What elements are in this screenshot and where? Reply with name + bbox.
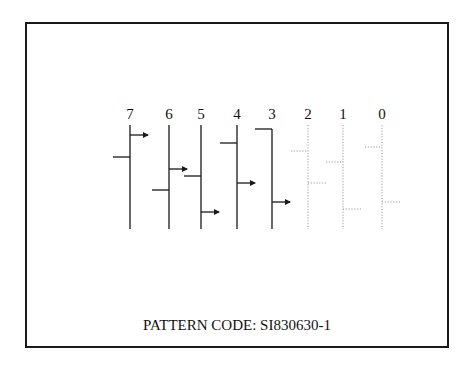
channel-7: 7 — [113, 106, 148, 229]
channel-0: 0 — [365, 106, 400, 229]
channel-5: 5 — [184, 106, 219, 229]
channel-3: 3 — [255, 106, 290, 229]
channel-label: 3 — [268, 106, 276, 122]
channel-1: 1 — [326, 106, 361, 229]
channel-2: 2 — [291, 106, 326, 229]
bit-pattern-diagram: 76543210 — [0, 0, 474, 369]
pattern-code-caption: PATTERN CODE: SI830630-1 — [0, 317, 474, 334]
channel-label: 5 — [197, 106, 205, 122]
channel-label: 1 — [339, 106, 347, 122]
channel-label: 7 — [126, 106, 134, 122]
channel-label: 2 — [304, 106, 312, 122]
channel-6: 6 — [152, 106, 187, 229]
channel-label: 4 — [233, 106, 241, 122]
channel-label: 0 — [378, 106, 386, 122]
channel-4: 4 — [220, 106, 255, 229]
channel-label: 6 — [165, 106, 173, 122]
